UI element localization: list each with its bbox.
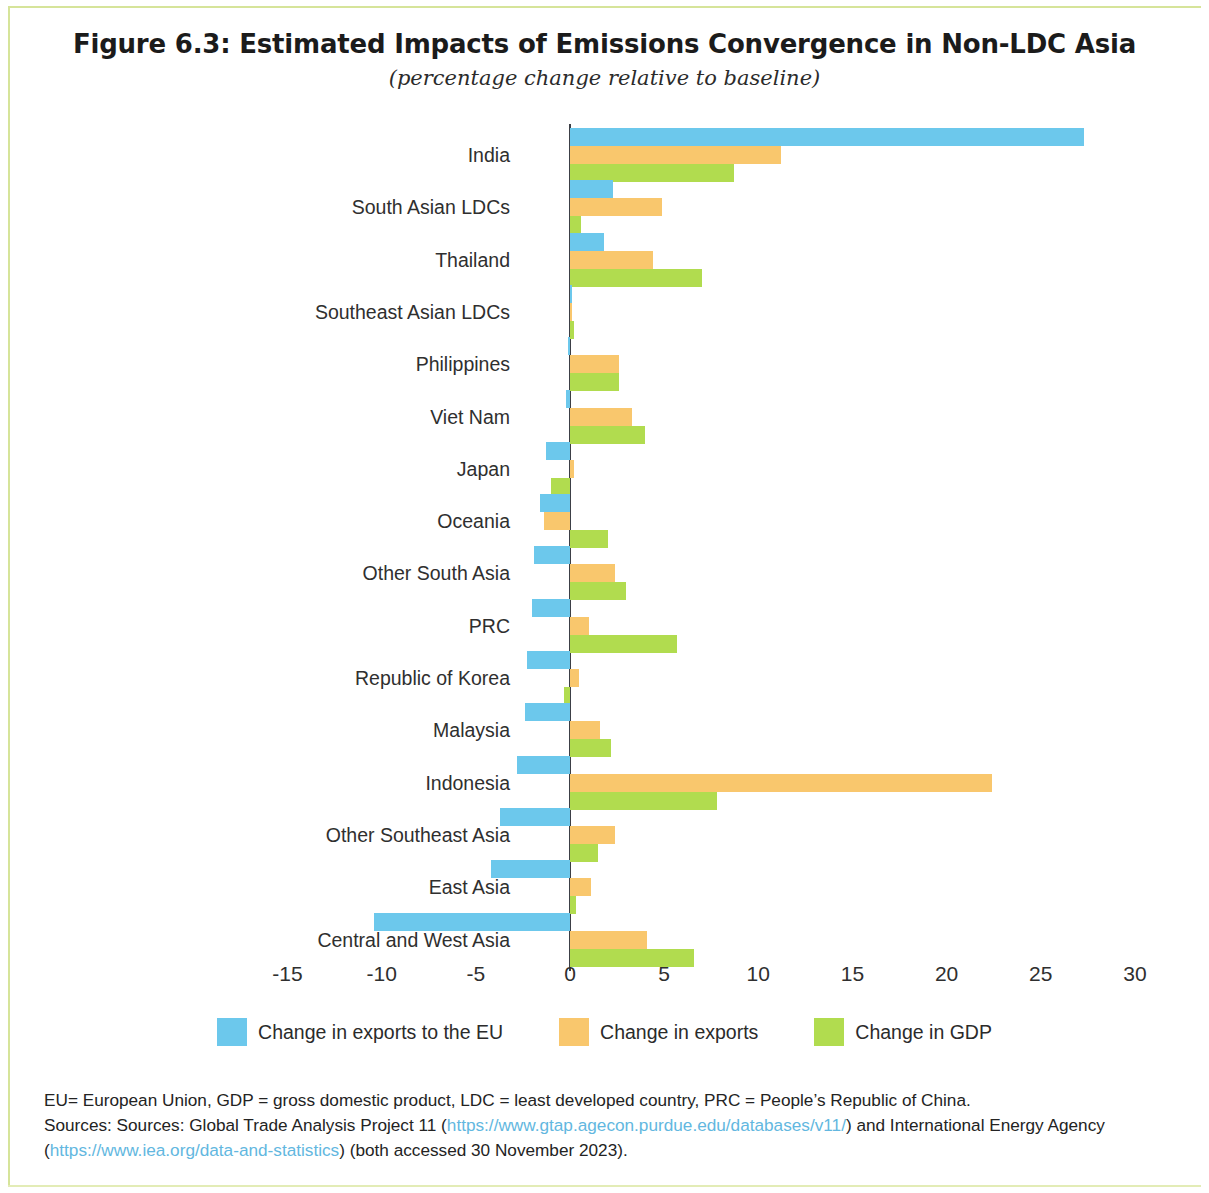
bar xyxy=(570,198,662,216)
bar xyxy=(570,617,589,635)
bar xyxy=(570,564,615,582)
bar xyxy=(570,285,572,303)
bar xyxy=(570,792,717,810)
legend-label: Change in exports to the EU xyxy=(258,1021,503,1044)
bar xyxy=(570,669,579,687)
x-tick-label: -10 xyxy=(367,962,397,986)
x-tick-label: 30 xyxy=(1123,962,1146,986)
bar xyxy=(570,582,626,600)
bar xyxy=(570,739,611,757)
figure-subtitle: (percentage change relative to baseline) xyxy=(0,66,1209,90)
bar xyxy=(570,896,576,914)
bar xyxy=(570,146,781,164)
figure-notes: EU= European Union, GDP = gross domestic… xyxy=(44,1088,1194,1163)
plot-area: IndiaSouth Asian LDCsThailandSoutheast A… xyxy=(0,124,1209,962)
bar xyxy=(570,303,572,321)
legend-swatch-2 xyxy=(559,1018,589,1046)
bar xyxy=(570,635,677,653)
bar xyxy=(570,180,613,198)
bar xyxy=(570,826,615,844)
bar xyxy=(570,530,608,548)
legend-item[interactable]: Change in exports to the EU xyxy=(217,1018,503,1046)
notes-sources-line: Sources: Sources: Global Trade Analysis … xyxy=(44,1113,1194,1138)
bar xyxy=(570,426,645,444)
x-tick-label: 15 xyxy=(841,962,864,986)
bar xyxy=(570,269,702,287)
bar xyxy=(527,651,570,669)
bar xyxy=(568,337,570,355)
bar xyxy=(534,546,570,564)
bar xyxy=(570,844,598,862)
notes-access-text: ) (both accessed 30 November 2023). xyxy=(339,1140,628,1160)
bar xyxy=(570,251,653,269)
x-tick-label: 5 xyxy=(658,962,670,986)
bar xyxy=(570,355,619,373)
bar xyxy=(570,774,992,792)
bar xyxy=(500,808,570,826)
x-tick-label: -5 xyxy=(467,962,486,986)
bar xyxy=(564,687,570,705)
bar xyxy=(570,460,574,478)
notes-abbreviations: EU= European Union, GDP = gross domestic… xyxy=(44,1088,1194,1113)
bar xyxy=(570,128,1084,146)
bar xyxy=(525,703,570,721)
title-block: Figure 6.3: Estimated Impacts of Emissio… xyxy=(0,30,1209,90)
x-tick-label: -15 xyxy=(272,962,302,986)
gtap-source-link[interactable]: https://www.gtap.agecon.purdue.edu/datab… xyxy=(447,1115,846,1135)
bar xyxy=(551,478,570,496)
bar xyxy=(532,599,570,617)
bar xyxy=(540,494,570,512)
iea-source-link[interactable]: https://www.iea.org/data-and-statistics xyxy=(50,1140,339,1160)
x-tick-label: 20 xyxy=(935,962,958,986)
notes-sources-text-cont: ) and International Energy Agency xyxy=(846,1115,1105,1135)
bar xyxy=(570,321,574,339)
x-tick-label: 0 xyxy=(564,962,576,986)
bar xyxy=(544,512,570,530)
bar xyxy=(570,233,604,251)
figure-title: Figure 6.3: Estimated Impacts of Emissio… xyxy=(0,30,1209,60)
bar xyxy=(570,373,619,391)
bar xyxy=(491,860,570,878)
legend-label: Change in exports xyxy=(600,1021,758,1044)
chart-legend: Change in exports to the EUChange in exp… xyxy=(0,1018,1209,1046)
legend-item[interactable]: Change in exports xyxy=(559,1018,758,1046)
bar xyxy=(570,878,591,896)
x-tick-label: 10 xyxy=(747,962,770,986)
bar xyxy=(570,164,734,182)
legend-item[interactable]: Change in GDP xyxy=(814,1018,992,1046)
x-tick-label: 25 xyxy=(1029,962,1052,986)
bar xyxy=(566,390,570,408)
figure-container: Figure 6.3: Estimated Impacts of Emissio… xyxy=(0,0,1209,1193)
notes-access-line: (https://www.iea.org/data-and-statistics… xyxy=(44,1138,1194,1163)
x-axis-tick-labels: -15-10-5051015202530 xyxy=(0,962,1209,1002)
bar xyxy=(374,913,570,931)
legend-swatch-3 xyxy=(814,1018,844,1046)
bar xyxy=(517,756,570,774)
bar xyxy=(570,931,647,949)
notes-sources-text: Sources: Sources: Global Trade Analysis … xyxy=(44,1115,447,1135)
bars-area xyxy=(0,124,1209,962)
bar xyxy=(546,442,570,460)
legend-label: Change in GDP xyxy=(855,1021,992,1044)
legend-swatch-1 xyxy=(217,1018,247,1046)
bar xyxy=(570,408,632,426)
bar xyxy=(570,216,581,234)
bar xyxy=(570,721,600,739)
